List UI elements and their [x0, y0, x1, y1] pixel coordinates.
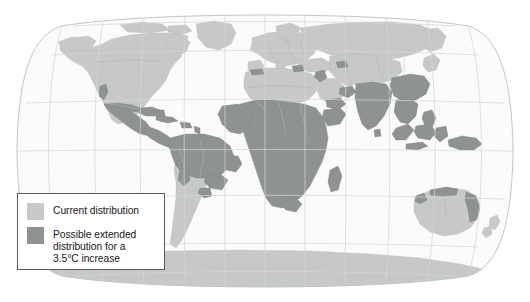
extended-sri-lanka	[374, 129, 381, 137]
legend-label-current-distribution: Current distribution	[53, 203, 139, 217]
legend-swatch-extended-distribution	[27, 227, 44, 244]
legend-item-current-distribution: Current distribution	[27, 203, 139, 220]
legend-label-extended-distribution: Possible extended distribution for a 3.5…	[53, 227, 136, 264]
map-legend: Current distribution Possible extended d…	[17, 193, 165, 270]
extended-greece	[292, 65, 304, 72]
legend-swatch-current-distribution	[27, 203, 44, 220]
legend-item-extended-distribution: Possible extended distribution for a 3.5…	[27, 227, 136, 264]
figure-container: Current distribution Possible extended d…	[0, 0, 530, 302]
extended-north-africa-coast	[250, 69, 264, 75]
